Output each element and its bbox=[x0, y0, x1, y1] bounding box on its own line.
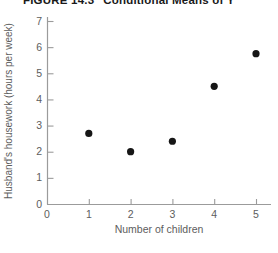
x-tick-label: 5 bbox=[253, 208, 259, 220]
scatter-plot-canvas: 01234567012345Number of childrenHusband'… bbox=[0, 0, 278, 253]
figure-container: FIGURE 14.3Conditional Means of Y 012345… bbox=[0, 0, 278, 253]
y-tick-label: 1 bbox=[36, 171, 42, 183]
data-point bbox=[127, 148, 134, 155]
y-axis-title: Husband's housework (hours per week) bbox=[3, 23, 14, 199]
x-tick-label: 3 bbox=[169, 208, 175, 220]
x-axis-title: Number of children bbox=[115, 223, 204, 235]
data-point bbox=[169, 138, 176, 145]
x-tick-label: 4 bbox=[211, 208, 217, 220]
x-tick-label: 0 bbox=[44, 208, 50, 220]
data-point bbox=[252, 50, 259, 57]
y-tick-label: 3 bbox=[36, 119, 42, 131]
y-tick-label: 7 bbox=[36, 15, 42, 27]
x-tick-label: 1 bbox=[86, 208, 92, 220]
y-tick-label: 0 bbox=[36, 198, 42, 210]
y-tick-label: 6 bbox=[36, 41, 42, 53]
y-tick-label: 2 bbox=[36, 145, 42, 157]
data-point bbox=[85, 130, 92, 137]
x-tick-label: 2 bbox=[128, 208, 134, 220]
data-point bbox=[211, 83, 218, 90]
y-tick-label: 4 bbox=[36, 93, 42, 105]
y-tick-label: 5 bbox=[36, 67, 42, 79]
